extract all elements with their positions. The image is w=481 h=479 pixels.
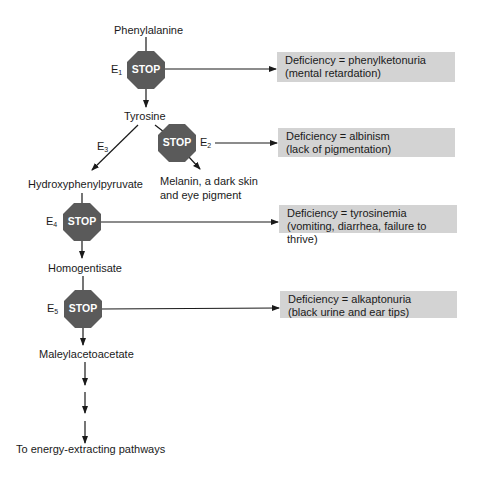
deficiency-box-albinism: Deficiency = albinism (lack of pigmentat…: [278, 128, 455, 157]
metabolite-tyrosine: Tyrosine: [124, 110, 166, 123]
deficiency-box-tyrosinemia: Deficiency = tyrosinemia (vomiting, diar…: [279, 205, 457, 233]
metabolite-melanin-line1: Melanin, a dark skin: [160, 175, 258, 188]
deficiency-symptoms: (mental retardation): [285, 67, 455, 80]
deficiency-symptoms: (vomiting, diarrhea, failure to thrive): [287, 220, 457, 246]
enzyme-label-e1: E1: [111, 63, 122, 79]
metabolite-energy-pathways: To energy-extracting pathways: [16, 443, 165, 456]
metabolite-hydroxyphenylpyruvate: Hydroxyphenylpyruvate: [28, 178, 143, 191]
stop-sign-icon-e1: STOP: [127, 51, 165, 89]
metabolite-homogentisate: Homogentisate: [48, 262, 122, 275]
enzyme-label-e3: E3: [97, 140, 108, 156]
deficiency-title: Deficiency = tyrosinemia: [287, 207, 457, 220]
deficiency-title: Deficiency = albinism: [286, 130, 455, 143]
deficiency-box-alkaptonuria: Deficiency = alkaptonuria (black urine a…: [280, 291, 457, 318]
metabolite-melanin-line2: and eye pigment: [160, 189, 241, 202]
deficiency-symptoms: (black urine and ear tips): [288, 306, 457, 319]
metabolite-phenylalanine: Phenylalanine: [114, 24, 183, 37]
enzyme-label-e5: E5: [47, 302, 58, 318]
deficiency-title: Deficiency = phenylketonuria: [285, 54, 455, 67]
deficiency-box-phenylketonuria: Deficiency = phenylketonuria (mental ret…: [277, 52, 455, 82]
deficiency-symptoms: (lack of pigmentation): [286, 143, 455, 156]
stop-sign-icon-e2: STOP: [158, 124, 196, 162]
stop-sign-icon-e5: STOP: [64, 290, 102, 328]
deficiency-title: Deficiency = alkaptonuria: [288, 293, 457, 306]
enzyme-label-e4: E4: [46, 215, 57, 231]
stop-sign-icon-e4: STOP: [63, 203, 101, 241]
metabolite-maleylacetoacetate: Maleylacetoacetate: [39, 348, 134, 361]
enzyme-label-e2: E2: [200, 136, 211, 152]
